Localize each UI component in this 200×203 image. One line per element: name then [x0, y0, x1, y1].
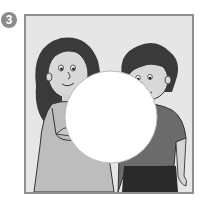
- exercise-number: 3: [6, 14, 13, 26]
- exercise-number-badge: 3: [1, 12, 17, 28]
- illustration: [26, 16, 192, 192]
- illustration-frame: [24, 14, 194, 194]
- blank-circle: [65, 71, 157, 163]
